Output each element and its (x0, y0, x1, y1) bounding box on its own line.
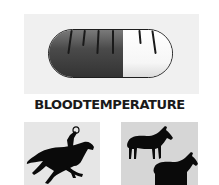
two-standing-horses-icon (121, 122, 198, 185)
temperature-gauge-pill (48, 29, 173, 78)
galloping-horse-rider-icon (24, 122, 100, 185)
gauge-empty (123, 30, 172, 77)
gauge-tick (112, 30, 114, 54)
blood-temperature-title: BLOODTEMPERATURE (0, 97, 219, 112)
standing-horses-panel (121, 122, 198, 185)
gauge-panel (24, 14, 199, 94)
galloping-horse-panel (24, 122, 100, 185)
